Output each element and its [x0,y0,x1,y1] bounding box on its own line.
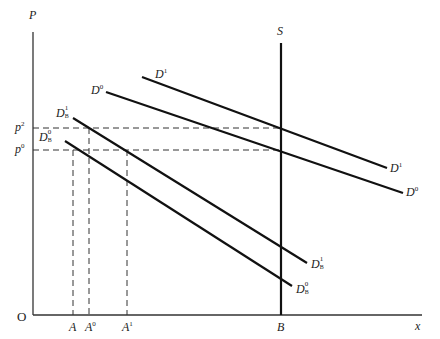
A0-sup: 0 [92,320,96,328]
D1-label-left: D1 [155,68,167,80]
DB1-sub: B [320,264,324,270]
D0-sup: 0 [415,185,419,193]
D1-sup: 1 [164,67,168,75]
p0-tick-label: p0 [15,143,25,155]
demand-curve-DB1 [73,118,307,263]
p0-sup: 0 [21,142,25,150]
D1-base: D [155,67,164,81]
DB1-sup: 1 [320,256,324,263]
DB1-indices: 1B [320,258,326,270]
y-axis-label-text: P [29,8,36,22]
A0-tick-label: A0 [85,321,96,333]
DB1-label-left: D1B [56,107,71,119]
DB1-base: D [56,106,65,120]
p2-tick-label: p2 [15,121,25,133]
A1-tick-label: A1 [122,321,133,333]
D0-label-left: D0 [91,84,103,96]
x-axis-label: x [415,320,420,332]
origin-label-text: O [17,309,26,324]
demand-curve-D0 [106,92,403,193]
DB0-base: D [39,130,48,144]
DB0-sup: 0 [48,129,52,136]
DB0-label-left: D0B [39,131,54,143]
demand-curve-D1 [142,77,387,168]
D0-label-right: D0 [406,186,418,198]
A1-sup: 1 [129,320,133,328]
p2-sup: 2 [21,120,25,128]
DB0-sub: B [48,137,52,143]
D0-base: D [91,83,100,97]
DB0-indices: 0B [48,131,54,143]
D0-base: D [406,185,415,199]
x-axis-label-text: x [415,319,420,333]
D1-sup: 1 [399,161,403,169]
D1-base: D [390,161,399,175]
origin-label: O [17,310,26,323]
DB1-sup: 1 [65,105,69,112]
DB0-sub: B [305,289,309,295]
supply-label-S: S [277,25,283,37]
DB1-base: D [311,257,320,271]
DB1-indices: 1B [65,107,71,119]
DB0-base: D [296,282,305,296]
D1-label-right: D1 [390,162,402,174]
supply-demand-diagram [0,0,440,339]
DB0-sup: 0 [305,281,309,288]
A-tick-label: A [69,321,76,333]
B-tick-label: B [277,321,284,333]
supply-label-text: S [277,24,283,38]
DB0-indices: 0B [305,283,311,295]
y-axis-label: P [29,9,36,21]
DB0-label-right: D0B [296,283,311,295]
demand-curve-DB0 [65,141,292,286]
B-base: B [277,320,284,334]
D0-sup: 0 [100,83,104,91]
A-base: A [69,320,76,334]
DB1-label-right: D1B [311,258,326,270]
DB1-sub: B [65,113,69,119]
